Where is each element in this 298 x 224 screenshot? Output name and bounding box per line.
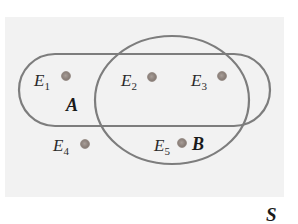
element-e1-base: E bbox=[34, 71, 44, 90]
element-e4-subscript: 4 bbox=[63, 145, 69, 157]
element-e4-dot bbox=[80, 139, 90, 149]
element-e4-base: E bbox=[53, 136, 63, 155]
element-e5-dot bbox=[177, 138, 187, 148]
element-e1-dot bbox=[61, 71, 71, 81]
element-e2-subscript: 2 bbox=[131, 80, 137, 92]
element-e5-base: E bbox=[154, 136, 164, 155]
element-e2-dot bbox=[147, 72, 157, 82]
sample-space-rectangle bbox=[5, 17, 284, 197]
element-e2-base: E bbox=[121, 71, 131, 90]
element-e3-base: E bbox=[191, 71, 201, 90]
element-e2-label: E2 bbox=[121, 72, 137, 89]
element-e5-subscript: 5 bbox=[164, 145, 170, 157]
element-e1-subscript: 1 bbox=[44, 80, 50, 92]
set-b-label: B bbox=[192, 135, 204, 153]
element-e5-label: E5 bbox=[154, 137, 170, 154]
set-a-label: A bbox=[66, 96, 78, 114]
venn-diagram bbox=[0, 0, 298, 224]
element-e3-label: E3 bbox=[191, 72, 207, 89]
element-e1-label: E1 bbox=[34, 72, 50, 89]
element-e3-subscript: 3 bbox=[201, 80, 207, 92]
element-e4-label: E4 bbox=[53, 137, 69, 154]
sample-space-label: S bbox=[266, 205, 277, 224]
element-e3-dot bbox=[217, 71, 227, 81]
